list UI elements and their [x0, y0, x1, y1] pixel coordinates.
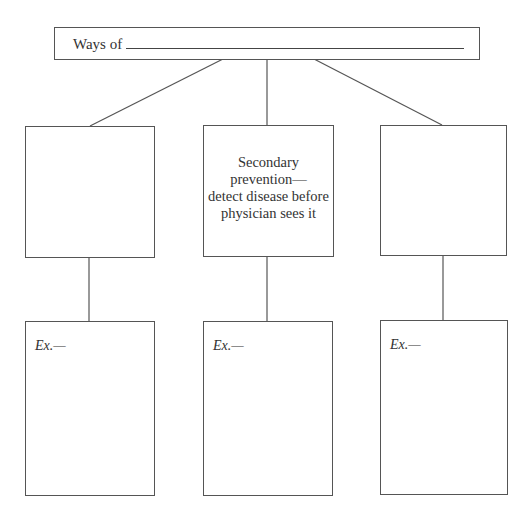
text-line: Secondary: [204, 154, 333, 171]
title-box: Ways of: [54, 27, 480, 60]
text-line: detect disease before: [204, 188, 333, 205]
example-box-right[interactable]: Ex.—: [380, 320, 508, 495]
secondary-prevention-text: Secondary prevention— detect disease bef…: [204, 154, 333, 222]
example-label: Ex.—: [213, 338, 244, 354]
example-label: Ex.—: [390, 337, 421, 353]
category-box-left[interactable]: [25, 126, 155, 258]
example-label: Ex.—: [35, 338, 66, 354]
text-line: physician sees it: [204, 205, 333, 222]
text-line: prevention—: [204, 171, 333, 188]
title-blank-line[interactable]: [126, 34, 464, 49]
title-prefix: Ways of: [73, 36, 122, 52]
category-box-right[interactable]: [380, 125, 507, 256]
title-text: Ways of: [73, 34, 464, 53]
example-box-middle[interactable]: Ex.—: [203, 321, 333, 496]
example-box-left[interactable]: Ex.—: [25, 321, 155, 496]
category-box-secondary-prevention: Secondary prevention— detect disease bef…: [203, 125, 334, 257]
